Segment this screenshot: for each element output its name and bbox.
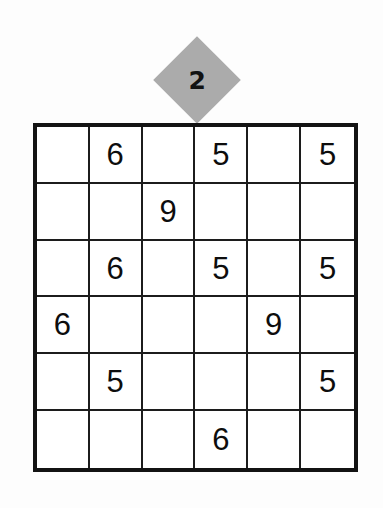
sudoku-grid: 6 5 5 9 6 5 5 6 9 5 5 6 <box>33 123 358 472</box>
grid-cell[interactable]: 9 <box>143 184 196 241</box>
grid-cell[interactable]: 5 <box>301 354 354 411</box>
grid-cell[interactable] <box>90 184 143 241</box>
grid-cell[interactable] <box>301 297 354 354</box>
grid-cell[interactable] <box>37 184 90 241</box>
grid-cell[interactable] <box>143 411 196 468</box>
grid-cell[interactable] <box>248 354 301 411</box>
grid-cell[interactable] <box>248 411 301 468</box>
grid-cell[interactable] <box>195 297 248 354</box>
grid-cell[interactable]: 5 <box>301 241 354 298</box>
grid-cell[interactable] <box>195 184 248 241</box>
grid-cell[interactable]: 6 <box>90 127 143 184</box>
sudoku-puzzle-root: 2 6 5 5 9 6 5 5 6 9 5 5 6 <box>0 0 383 508</box>
grid-cell[interactable]: 5 <box>195 127 248 184</box>
grid-cell[interactable]: 5 <box>301 127 354 184</box>
grid-cell[interactable] <box>143 354 196 411</box>
grid-cell[interactable] <box>90 297 143 354</box>
grid-cell[interactable] <box>90 411 143 468</box>
grid-cell[interactable] <box>37 354 90 411</box>
grid-cell[interactable]: 6 <box>90 241 143 298</box>
diamond-badge-label: 2 <box>166 49 228 111</box>
grid-cell[interactable] <box>248 241 301 298</box>
grid-cell[interactable] <box>143 297 196 354</box>
grid-cell[interactable]: 6 <box>195 411 248 468</box>
grid-cell[interactable] <box>37 411 90 468</box>
grid-cell[interactable] <box>143 127 196 184</box>
grid-cell[interactable]: 9 <box>248 297 301 354</box>
grid-cell[interactable] <box>248 127 301 184</box>
grid-cell[interactable] <box>37 127 90 184</box>
grid-cell[interactable]: 5 <box>90 354 143 411</box>
grid-cell[interactable] <box>143 241 196 298</box>
grid-cell[interactable] <box>248 184 301 241</box>
grid-cell[interactable]: 6 <box>37 297 90 354</box>
grid-cell[interactable] <box>301 184 354 241</box>
grid-cell[interactable] <box>301 411 354 468</box>
grid-cell[interactable]: 5 <box>195 241 248 298</box>
grid-cell[interactable] <box>37 241 90 298</box>
grid-cell[interactable] <box>195 354 248 411</box>
